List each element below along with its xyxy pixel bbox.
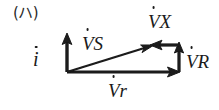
phasor-base-letter: V [148, 11, 160, 32]
phasor-subscript: r [120, 80, 127, 101]
phasor-symbol-current: i [33, 49, 39, 69]
phasor-symbol-v-s: V [82, 34, 94, 53]
phasor-symbol-v-r-uppercase: V [186, 52, 198, 71]
vector-v-s [67, 45, 154, 72]
vector-v-r-lowercase [67, 67, 180, 77]
vector-current [62, 33, 72, 72]
overdot-icon [190, 46, 193, 49]
phasor-subscript: S [94, 33, 104, 54]
label-v-r-uppercase: V R [186, 52, 209, 71]
label-v-x: V X [148, 12, 171, 31]
phasor-symbol-v-x: V [148, 12, 160, 31]
overdot-icon [112, 75, 115, 78]
phasor-symbol-v-r-lowercase: V [108, 81, 120, 100]
overdot-icon [152, 6, 155, 9]
label-v-r-lowercase: V r [108, 81, 127, 100]
phasor-base-letter: i [33, 48, 39, 70]
label-v-s: V S [82, 34, 103, 53]
phasor-subscript: X [160, 11, 172, 32]
phasor-base-letter: V [108, 80, 120, 101]
enumeration-label: (ハ) [13, 6, 38, 21]
phasor-diagram-figure: (ハ) i V S V X V R V r [0, 0, 219, 110]
phasor-base-letter: V [186, 51, 198, 72]
label-current: i [33, 49, 39, 69]
overdot-icon [86, 28, 89, 31]
phasor-subscript: R [198, 51, 210, 72]
phasor-base-letter: V [82, 33, 94, 54]
